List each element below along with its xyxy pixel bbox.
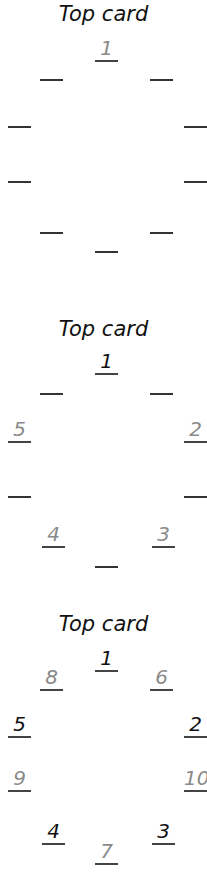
slot-top: 1	[95, 349, 118, 375]
slot-right-upper: 2	[184, 712, 207, 738]
slot-label: 10	[184, 768, 207, 788]
slot-bottom	[95, 542, 118, 568]
slot-line	[42, 546, 65, 548]
slot-label: 4	[42, 821, 65, 841]
slot-line	[184, 441, 207, 443]
slot-upper-right	[150, 369, 173, 395]
slot-upper-right	[150, 55, 173, 81]
slot-label: 2	[184, 714, 207, 734]
panel-title: Top card	[0, 317, 207, 341]
slot-right-lower: 10	[184, 766, 207, 792]
slot-lower-left: 4	[42, 819, 65, 845]
slot-right-lower	[184, 157, 207, 183]
slot-left-lower	[8, 472, 31, 498]
slot-line	[40, 689, 63, 691]
slot-lower-left	[40, 208, 63, 234]
slot-left-upper: 5	[8, 712, 31, 738]
slot-bottom	[95, 227, 118, 253]
slot-line	[95, 251, 118, 253]
slot-left-upper: 5	[8, 417, 31, 443]
slot-upper-left	[40, 55, 63, 81]
slot-line	[95, 60, 118, 62]
slot-label: 7	[95, 841, 118, 861]
slot-right-lower	[184, 472, 207, 498]
card-layout-panel-2: Top card 1 5 2 4 3	[0, 315, 207, 610]
slot-line	[150, 232, 173, 234]
slot-label: 3	[152, 821, 175, 841]
slot-lower-right	[150, 208, 173, 234]
slot-top: 1	[95, 646, 118, 672]
slot-line	[184, 736, 207, 738]
slot-label: 9	[8, 768, 31, 788]
slot-top: 1	[95, 36, 118, 62]
slot-label: 1	[95, 38, 118, 58]
slot-bottom: 7	[95, 839, 118, 865]
slot-label: 3	[152, 524, 175, 544]
slot-line	[8, 441, 31, 443]
slot-left-lower	[8, 157, 31, 183]
slot-line	[95, 566, 118, 568]
slot-line	[95, 373, 118, 375]
slot-line	[152, 843, 175, 845]
slot-line	[152, 546, 175, 548]
slot-line	[150, 393, 173, 395]
panel-title: Top card	[0, 2, 207, 26]
slot-lower-left: 4	[42, 522, 65, 548]
slot-line	[184, 790, 207, 792]
slot-lower-right: 3	[152, 522, 175, 548]
slot-left-lower: 9	[8, 766, 31, 792]
slot-label: 1	[95, 648, 118, 668]
slot-line	[8, 181, 31, 183]
slot-line	[8, 126, 31, 128]
slot-label: 5	[8, 714, 31, 734]
slot-line	[40, 79, 63, 81]
slot-upper-left	[40, 369, 63, 395]
panel-title: Top card	[0, 612, 207, 636]
slot-line	[95, 863, 118, 865]
slot-lower-right: 3	[152, 819, 175, 845]
slot-label: 8	[40, 667, 63, 687]
slot-right-upper	[184, 102, 207, 128]
card-layout-panel-1: Top card 1	[0, 0, 207, 295]
slot-label: 1	[95, 351, 118, 371]
slot-label: 5	[8, 419, 31, 439]
slot-line	[150, 689, 173, 691]
slot-label: 6	[150, 667, 173, 687]
slot-line	[40, 393, 63, 395]
slot-line	[184, 496, 207, 498]
slot-line	[184, 126, 207, 128]
card-layout-panel-3: Top card 1 8 6 5 2 9 10 4 3 7	[0, 610, 207, 885]
slot-line	[42, 843, 65, 845]
slot-line	[40, 232, 63, 234]
slot-line	[184, 181, 207, 183]
slot-label: 2	[184, 419, 207, 439]
slot-left-upper	[8, 102, 31, 128]
slot-line	[8, 790, 31, 792]
slot-upper-left: 8	[40, 665, 63, 691]
slot-line	[8, 736, 31, 738]
slot-label: 4	[42, 524, 65, 544]
slot-line	[150, 79, 173, 81]
slot-right-upper: 2	[184, 417, 207, 443]
slot-line	[8, 496, 31, 498]
slot-line	[95, 670, 118, 672]
slot-upper-right: 6	[150, 665, 173, 691]
